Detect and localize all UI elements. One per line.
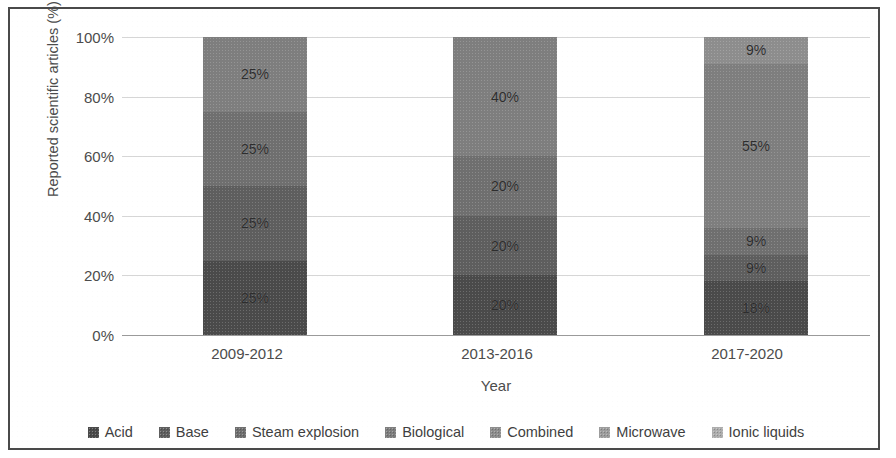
legend-swatch-icon <box>599 427 610 438</box>
legend-label: Base <box>176 424 209 440</box>
x-category-label-2: 2017-2020 <box>622 345 872 362</box>
legend-item-steam-explosion[interactable]: Steam explosion <box>235 424 359 440</box>
bar-segment[interactable]: 9% <box>704 37 808 64</box>
bar-segment-label: 25% <box>241 142 269 156</box>
bar-segment-label: 20% <box>491 298 519 312</box>
bar-segment[interactable]: 40% <box>453 37 557 156</box>
bar-segment[interactable]: 9% <box>704 255 808 282</box>
legend-swatch-icon <box>88 427 99 438</box>
stacked-bar-2013-2016[interactable]: 40%20%20%20% <box>453 37 557 335</box>
legend-swatch-icon <box>159 427 170 438</box>
bar-segment-label: 25% <box>241 216 269 230</box>
x-axis-title: Year <box>122 377 870 394</box>
bar-segment[interactable]: 25% <box>203 186 307 261</box>
y-tick-0: 0% <box>54 327 114 344</box>
bar-segment[interactable]: 9% <box>704 228 808 255</box>
legend-label: Acid <box>105 424 133 440</box>
bar-segment-label: 55% <box>742 139 770 153</box>
bar-segment[interactable]: 18% <box>704 281 808 335</box>
bar-segment[interactable]: 25% <box>203 261 307 336</box>
legend-item-biological[interactable]: Biological <box>385 424 464 440</box>
legend-label: Microwave <box>616 424 685 440</box>
bar-segment-label: 18% <box>742 301 770 315</box>
bar-segment-label: 25% <box>241 67 269 81</box>
bar-segment[interactable]: 20% <box>453 216 557 276</box>
legend-swatch-icon <box>385 427 396 438</box>
y-tick-80: 80% <box>54 88 114 105</box>
x-category-label-1: 2013-2016 <box>372 345 622 362</box>
stacked-bar-2009-2012[interactable]: 25%25%25%25% <box>203 37 307 335</box>
bar-segment[interactable]: 20% <box>453 156 557 216</box>
bar-segment[interactable]: 25% <box>203 112 307 187</box>
legend-item-microwave[interactable]: Microwave <box>599 424 685 440</box>
plot-area: 25%25%25%25% 40%20%20%20% 9%55%9%9%18% <box>122 37 870 335</box>
chart-legend: AcidBaseSteam explosionBiologicalCombine… <box>10 424 882 440</box>
bar-segment-label: 9% <box>746 43 766 57</box>
bar-segment[interactable]: 25% <box>203 37 307 112</box>
legend-label: Ionic liquids <box>729 424 805 440</box>
y-tick-100: 100% <box>54 29 114 46</box>
bar-segment-label: 9% <box>746 261 766 275</box>
legend-item-ionic-liquids[interactable]: Ionic liquids <box>712 424 805 440</box>
chart-frame: Reported scientific articles (%) 100% 80… <box>8 7 880 450</box>
y-tick-20: 20% <box>54 267 114 284</box>
legend-label: Steam explosion <box>252 424 359 440</box>
bar-segment-label: 20% <box>491 239 519 253</box>
legend-item-base[interactable]: Base <box>159 424 209 440</box>
legend-swatch-icon <box>490 427 501 438</box>
bar-segment-label: 9% <box>746 234 766 248</box>
bar-segment-label: 20% <box>491 179 519 193</box>
legend-label: Combined <box>507 424 573 440</box>
bar-segment[interactable]: 55% <box>704 64 808 228</box>
y-tick-60: 60% <box>54 148 114 165</box>
y-tick-40: 40% <box>54 207 114 224</box>
legend-swatch-icon <box>712 427 723 438</box>
legend-label: Biological <box>402 424 464 440</box>
bar-segment-label: 25% <box>241 291 269 305</box>
x-category-label-0: 2009-2012 <box>122 345 372 362</box>
legend-swatch-icon <box>235 427 246 438</box>
stacked-bar-2017-2020[interactable]: 9%55%9%9%18% <box>704 37 808 335</box>
bar-segment-label: 40% <box>491 90 519 104</box>
y-axis-tick-labels: 100% 80% 60% 40% 20% 0% <box>52 37 114 335</box>
legend-item-combined[interactable]: Combined <box>490 424 573 440</box>
legend-item-acid[interactable]: Acid <box>88 424 133 440</box>
gridline-0-baseline <box>122 335 870 336</box>
bar-segment[interactable]: 20% <box>453 275 557 335</box>
